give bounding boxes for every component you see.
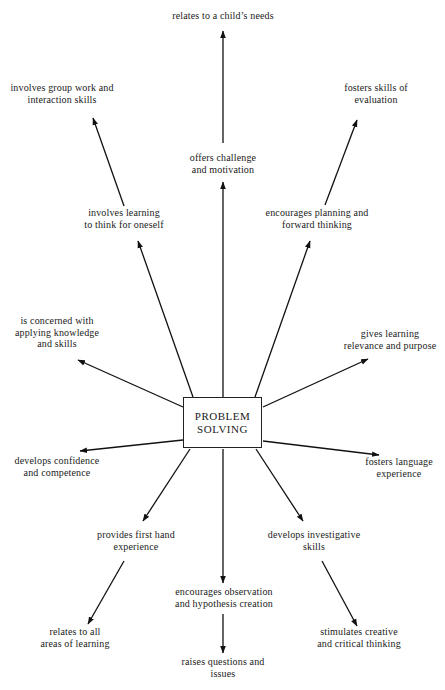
arrow-center-to-planning (255, 241, 310, 397)
arrow-planning-to-evaluation (325, 120, 357, 205)
node-planning: encourages planning andforward thinking (266, 207, 369, 230)
node-applying-line-1: is concerned with (15, 315, 99, 327)
node-childs-needs: relates to a child’s needs (172, 10, 274, 22)
node-language-line-2: experience (365, 468, 433, 480)
node-applying-line-2: applying knowledge (15, 327, 99, 339)
arrow-first-hand-to-all-areas (88, 561, 124, 624)
node-think-oneself: involves learningto think for oneself (84, 207, 163, 230)
node-all-areas-line-2: areas of learning (40, 638, 109, 650)
node-questions-line-2: issues (182, 668, 265, 680)
center-concept-box: PROBLEM SOLVING (183, 397, 262, 448)
node-evaluation-line-2: evaluation (344, 94, 408, 106)
node-all-areas: relates to allareas of learning (40, 626, 109, 649)
node-relevance-line-2: relevance and purpose (344, 340, 437, 352)
arrow-center-to-applying (78, 360, 183, 407)
node-group-work: involves group work andinteraction skill… (10, 82, 113, 105)
arrow-center-to-think-oneself (138, 241, 193, 397)
arrow-center-to-language (263, 441, 379, 455)
node-confidence-line-2: and competence (15, 467, 100, 479)
node-confidence-line-1: develops confidence (15, 455, 100, 467)
node-group-work-line-2: interaction skills (10, 94, 113, 106)
node-investigative-line-2: skills (268, 541, 360, 553)
node-creative-line-2: and critical thinking (317, 638, 401, 650)
node-relevance-line-1: gives learning (344, 328, 437, 340)
node-confidence: develops confidenceand competence (15, 455, 100, 478)
node-challenge-line-1: offers challenge (190, 152, 256, 164)
arrow-center-to-investigative (256, 449, 303, 521)
node-language-line-1: fosters language (365, 456, 433, 468)
node-creative-line-1: stimulates creative (317, 626, 401, 638)
node-all-areas-line-1: relates to all (40, 626, 109, 638)
node-first-hand: provides first handexperience (97, 529, 175, 552)
node-observation-line-2: and hypothesis creation (175, 598, 273, 610)
node-language: fosters languageexperience (365, 456, 433, 479)
node-childs-needs-line-1: relates to a child’s needs (172, 10, 274, 22)
node-applying: is concerned withapplying knowledgeand s… (15, 315, 99, 350)
node-challenge-line-2: and motivation (190, 164, 256, 176)
node-think-oneself-line-2: to think for oneself (84, 219, 163, 231)
node-observation-line-1: encourages observation (175, 586, 273, 598)
node-creative: stimulates creativeand critical thinking (317, 626, 401, 649)
arrow-center-to-relevance (263, 359, 368, 407)
node-planning-line-2: forward thinking (266, 219, 369, 231)
arrow-investigative-to-creative (322, 561, 357, 626)
arrow-think-oneself-to-group-work (93, 118, 124, 206)
node-evaluation-line-1: fosters skills of (344, 82, 408, 94)
node-questions: raises questions andissues (182, 656, 265, 679)
center-line-2: SOLVING (197, 423, 248, 436)
node-investigative-line-1: develops investigative (268, 529, 360, 541)
node-applying-line-3: and skills (15, 338, 99, 350)
node-challenge: offers challengeand motivation (190, 152, 256, 175)
arrow-center-to-first-hand (143, 449, 190, 521)
problem-solving-diagram: PROBLEM SOLVING relates to a child’s nee… (0, 0, 445, 690)
node-group-work-line-1: involves group work and (10, 82, 113, 94)
node-think-oneself-line-1: involves learning (84, 207, 163, 219)
node-observation: encourages observationand hypothesis cre… (175, 586, 273, 609)
center-line-1: PROBLEM (195, 410, 250, 423)
node-first-hand-line-1: provides first hand (97, 529, 175, 541)
arrow-center-to-confidence (80, 440, 183, 451)
node-first-hand-line-2: experience (97, 541, 175, 553)
node-questions-line-1: raises questions and (182, 656, 265, 668)
node-evaluation: fosters skills ofevaluation (344, 82, 408, 105)
node-relevance: gives learningrelevance and purpose (344, 328, 437, 351)
node-planning-line-1: encourages planning and (266, 207, 369, 219)
node-investigative: develops investigativeskills (268, 529, 360, 552)
